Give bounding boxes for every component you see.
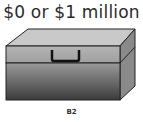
box-lid-top bbox=[6, 29, 135, 46]
box-body-front bbox=[6, 63, 120, 100]
box-illustration bbox=[0, 26, 143, 106]
box-caption: B2 bbox=[0, 108, 143, 116]
amount-label: $0 or $1 million bbox=[0, 2, 143, 22]
